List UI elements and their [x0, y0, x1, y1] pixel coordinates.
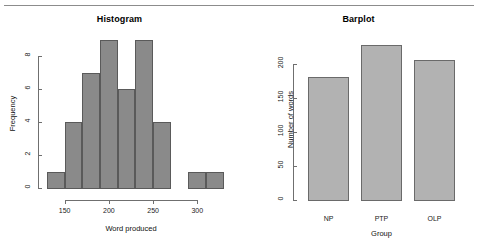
histogram-bar: [206, 172, 224, 189]
barplot-y-tick: [293, 200, 297, 201]
figure-two-panel: Histogram 02468150200250300Word produced…: [0, 0, 478, 246]
histogram-x-tick-label: 150: [50, 207, 80, 214]
barplot-bar: [308, 77, 349, 201]
histogram-title: Histogram: [0, 14, 239, 24]
histogram-y-tick: [38, 122, 42, 123]
histogram-y-tick-label: 8: [24, 47, 31, 63]
histogram-x-tick: [109, 200, 110, 204]
histogram-y-tick-label: 6: [24, 80, 31, 96]
barplot-bar: [414, 60, 455, 201]
barplot-y-tick: [293, 166, 297, 167]
barplot-y-tick-label: 0: [277, 190, 284, 208]
histogram-bar: [47, 172, 65, 189]
barplot-y-tick-label: 100: [277, 121, 284, 139]
histogram-x-tick: [197, 200, 198, 204]
barplot-y-tick-label: 150: [277, 87, 284, 105]
barplot-bar: [361, 45, 402, 201]
barplot-x-axis-title: Group: [302, 229, 461, 238]
histogram-x-axis-title: Word produced: [17, 224, 245, 233]
histogram-x-tick-label: 250: [138, 207, 168, 214]
panel-barplot: Barplot NPPTPOLP050100150200GroupNumber …: [239, 0, 478, 246]
barplot-title: Barplot: [239, 14, 478, 24]
histogram-y-tick-label: 2: [24, 146, 31, 162]
histogram-y-axis-title: Frequency: [8, 84, 17, 144]
panel-histogram: Histogram 02468150200250300Word produced…: [0, 0, 239, 246]
histogram-y-tick: [38, 188, 42, 189]
barplot-y-tick: [293, 64, 297, 65]
histogram-x-tick-label: 200: [94, 207, 124, 214]
histogram-bar: [100, 40, 118, 189]
barplot-y-tick-label: 200: [277, 53, 284, 71]
histogram-x-tick: [65, 200, 66, 204]
histogram-bar: [153, 122, 171, 189]
histogram-y-tick: [38, 56, 42, 57]
histogram-bar: [82, 73, 100, 189]
histogram-bar: [135, 40, 153, 189]
histogram-y-tick: [38, 89, 42, 90]
histogram-x-axis-line: [65, 200, 198, 201]
barplot-y-axis-title: Number of words: [286, 75, 295, 165]
histogram-bar: [188, 172, 206, 189]
barplot-x-tick-label: OLP: [404, 215, 465, 222]
barplot-y-tick-label: 50: [277, 155, 284, 173]
histogram-bar: [118, 89, 136, 189]
histogram-x-tick: [153, 200, 154, 204]
histogram-bar: [65, 122, 83, 189]
histogram-y-tick-label: 4: [24, 113, 31, 129]
histogram-y-tick: [38, 155, 42, 156]
histogram-x-tick-label: 300: [182, 207, 212, 214]
histogram-y-tick-label: 0: [24, 179, 31, 195]
